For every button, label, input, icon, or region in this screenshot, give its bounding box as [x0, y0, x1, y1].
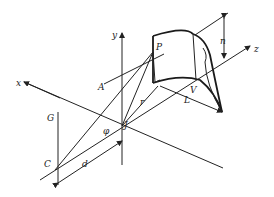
label-z: z [253, 44, 259, 54]
label-j: J [122, 120, 129, 130]
z-axis [40, 46, 250, 180]
label-a: A [97, 82, 105, 92]
surface-top-edge [153, 30, 193, 36]
label-phi: φ [103, 126, 110, 136]
surface-inner-edge [193, 34, 196, 80]
label-d: d [82, 159, 88, 169]
label-x: x [16, 78, 21, 88]
label-l: L [183, 95, 190, 105]
label-r: r [140, 97, 145, 107]
label-v: V [190, 85, 198, 95]
line-p-j [122, 52, 153, 126]
label-c: C [44, 159, 51, 169]
n-extension-top [195, 13, 228, 35]
label-n: n [220, 36, 226, 46]
x-axis-arrow [24, 82, 60, 98]
diagram-canvas: y x z P A J C G V r L d n φ [0, 0, 274, 197]
label-p: P [155, 42, 163, 52]
label-y: y [111, 30, 118, 40]
label-g: G [47, 113, 54, 123]
